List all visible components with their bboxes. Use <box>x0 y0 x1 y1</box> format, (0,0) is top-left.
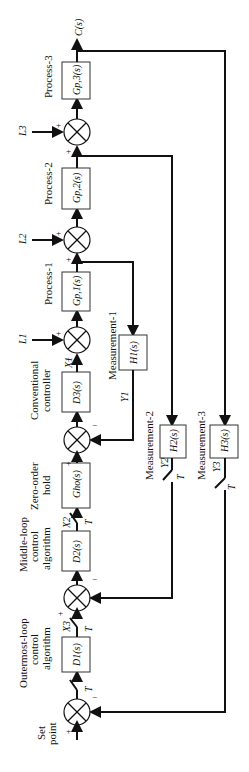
feedback-path-3 <box>77 51 225 425</box>
feedback-path-2 <box>77 156 172 425</box>
outer-label-3: algorithm <box>40 627 52 670</box>
block-d1-label: D1(s) <box>71 643 83 667</box>
measurement2-label: Measurement-2 <box>143 411 155 480</box>
sampler-switch-y3 <box>215 478 225 488</box>
block-h3-label: H3(s) <box>219 429 231 453</box>
summing-junction-l2 <box>64 227 90 253</box>
sample-t-x2: T <box>83 518 94 525</box>
summing-junction-middle <box>64 585 90 611</box>
plus-inner: + <box>66 458 71 468</box>
block-gp2-label: Gp,2(s) <box>71 172 83 203</box>
minus-middle: − <box>92 574 97 584</box>
setpoint-label-2: point <box>46 722 58 745</box>
middle-label-2: control <box>28 531 40 562</box>
y2-label: Y2 <box>159 457 170 468</box>
plus-p2: + <box>66 146 71 156</box>
conventional-label: Conventional <box>28 361 40 420</box>
process3-label: Process-3 <box>42 55 54 98</box>
sampler-switch-y2 <box>163 470 172 480</box>
controller-label: controller <box>40 369 52 412</box>
plus-l1: + <box>56 328 61 338</box>
summing-junction-l1 <box>64 327 90 353</box>
sampler-switch-outer <box>70 680 77 690</box>
sample-t-y3: T <box>226 483 237 490</box>
zoh-label-1: Zero-order <box>28 462 40 510</box>
output-label: C(s) <box>73 18 85 36</box>
y1-label: Y1 <box>119 391 130 402</box>
block-d3-label: D3(s) <box>71 381 83 405</box>
measurement1-label: Measurement-1 <box>106 311 118 380</box>
summing-junction-l3 <box>64 119 90 145</box>
block-diagram: D1(s) D2(s) Gho(s) D3(s) Gp,1(s) <box>0 0 249 772</box>
zoh-label-2: hold <box>40 475 52 495</box>
plus-outer: + <box>66 726 71 736</box>
l2-label: L2 <box>17 233 28 245</box>
block-d2-label: D2(s) <box>71 540 83 564</box>
l3-label: L3 <box>17 125 28 137</box>
block-h2-label: H2(s) <box>168 429 180 453</box>
block-gp1-label: Gp,1(s) <box>71 275 83 306</box>
plus-x1: + <box>66 354 71 364</box>
plus-p1: + <box>66 254 71 264</box>
x3-label: X3 <box>61 621 72 633</box>
process1-label: Process-1 <box>42 262 54 305</box>
measurement3-label: Measurement-3 <box>195 410 207 480</box>
summing-junction-inner <box>64 427 90 453</box>
minus-inner: − <box>92 420 97 430</box>
sample-t-y2: T <box>175 473 186 480</box>
block-zoh-label: Gho(s) <box>71 470 83 498</box>
sample-t-x3: T <box>83 625 94 632</box>
plus-middle: + <box>58 608 63 618</box>
y3-label: Y3 <box>211 461 222 472</box>
minus-outer: − <box>92 692 97 702</box>
plus-l3: + <box>56 120 61 130</box>
block-gp3-label: Gp,3(s) <box>71 64 83 95</box>
process2-label: Process-2 <box>42 162 54 205</box>
middle-label-3: algorithm <box>40 527 52 570</box>
sample-t-outer: T <box>83 685 94 692</box>
l1-label: L1 <box>17 333 28 345</box>
block-h1-label: H1(s) <box>128 341 140 365</box>
outer-label-2: control <box>28 634 40 665</box>
x2-label: X2 <box>61 517 72 529</box>
summing-junction-outer <box>64 699 90 725</box>
plus-l2: + <box>56 228 61 238</box>
